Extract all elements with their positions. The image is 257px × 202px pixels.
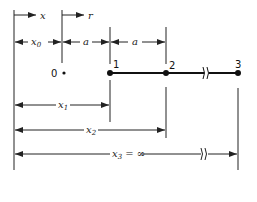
node-0 <box>62 71 65 74</box>
a1-label: a <box>83 36 89 47</box>
node-0-label: 0 <box>51 68 57 79</box>
a2-label: a <box>132 36 138 47</box>
x1-label: x1 <box>58 99 68 112</box>
node-3-label: 3 <box>235 59 241 70</box>
chain-diagram: x r x0 a a 0 1 2 3 x1 x2 <box>0 0 257 202</box>
node-3 <box>235 70 241 76</box>
x-axis-label: x <box>40 10 46 21</box>
x2-label: x2 <box>86 124 97 137</box>
x3-label: x3 = ∞ <box>112 148 145 161</box>
r-axis-label: r <box>88 10 94 21</box>
node-2-label: 2 <box>169 60 175 71</box>
node-1 <box>107 70 113 76</box>
node-1-label: 1 <box>113 59 119 70</box>
reference-lines <box>14 10 238 170</box>
x0-label: x0 <box>31 36 42 49</box>
